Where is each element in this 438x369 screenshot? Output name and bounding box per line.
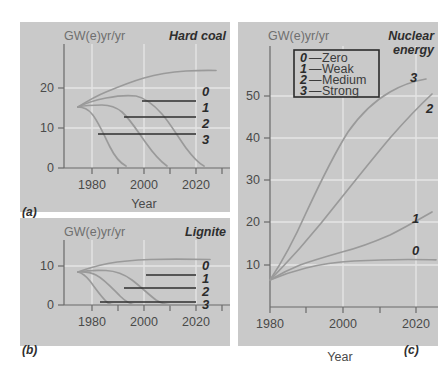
panel-c-curve-label-3: 3 xyxy=(410,70,418,85)
panel-b-curve-3 xyxy=(78,272,116,305)
panel-c-title-line2: energy xyxy=(393,43,435,57)
panel-b-ytick-0: 0 xyxy=(47,298,54,312)
panel-c-ytick-30: 30 xyxy=(246,173,260,187)
panel-c-xtick-2000: 2000 xyxy=(329,317,357,331)
panel-b-id-wrap: (b) xyxy=(22,338,62,362)
panel-a-chart: 20 10 0 1980 2000 2020 GW(e)yr/yr Hard c… xyxy=(20,22,230,212)
legend-dash-3: — xyxy=(309,84,322,98)
panel-c-ytick-20: 20 xyxy=(246,215,260,229)
panel-c-xaxis-label: Year xyxy=(327,350,352,364)
panel-a-xtick-1980: 1980 xyxy=(78,178,106,192)
panel-b-lignite: 10 0 1980 2000 2020 GW(e)yr/yr Lignite 0… xyxy=(20,218,230,346)
legend-num-3: 3 xyxy=(300,84,307,98)
panel-c-unit-label: GW(e)yr/yr xyxy=(268,29,329,43)
panel-a-ytick-10: 10 xyxy=(40,121,54,135)
panel-a-curve-label-3: 3 xyxy=(202,132,210,147)
panel-c-ytick-40: 40 xyxy=(246,131,260,145)
panel-c-xtick-2020: 2020 xyxy=(402,317,430,331)
panel-a-curve-label-0: 0 xyxy=(202,84,210,99)
panel-c-curve-label-0: 0 xyxy=(412,243,420,258)
panel-c-nuclear-energy: 50 40 30 20 10 1980 2000 2020 GW(e)yr/yr… xyxy=(238,22,438,346)
panel-b-xtick-2000: 2000 xyxy=(130,315,158,329)
panel-a-curve-3 xyxy=(78,107,126,166)
panel-b-xtick-2020: 2020 xyxy=(182,315,210,329)
panel-a-ytick-20: 20 xyxy=(40,81,54,95)
panel-b-unit-label: GW(e)yr/yr xyxy=(64,225,125,239)
panel-c-curve-label-1: 1 xyxy=(412,211,419,226)
panel-a-xtick-2000: 2000 xyxy=(130,178,158,192)
panel-c-xaxis-label-wrap: Year xyxy=(250,346,430,368)
panel-b-leader-lines xyxy=(100,275,196,302)
panel-a-curve-1 xyxy=(78,96,204,166)
legend-label-strong: Strong xyxy=(322,84,359,98)
panel-a-xaxis-label: Year xyxy=(131,197,156,211)
panel-b-chart: 10 0 1980 2000 2020 GW(e)yr/yr Lignite 0… xyxy=(20,218,230,346)
panel-c-title-line1: Nuclear xyxy=(388,29,435,43)
panel-c-curve-0 xyxy=(270,260,436,281)
panel-b-ytick-10: 10 xyxy=(40,259,54,273)
panel-a-hard-coal: 20 10 0 1980 2000 2020 GW(e)yr/yr Hard c… xyxy=(20,22,230,212)
panel-b-xtick-1980: 1980 xyxy=(78,315,106,329)
panel-c-chart: 50 40 30 20 10 1980 2000 2020 GW(e)yr/yr… xyxy=(238,22,438,346)
panel-a-title: Hard coal xyxy=(169,29,226,43)
panel-a-unit-label: GW(e)yr/yr xyxy=(64,29,125,43)
panel-a-curve-label-2: 2 xyxy=(201,116,210,131)
panel-c-curve-2 xyxy=(270,94,432,280)
panel-a-ytick-0: 0 xyxy=(47,161,54,175)
panel-b-title: Lignite xyxy=(185,225,226,239)
panel-b-curve-label-3: 3 xyxy=(202,297,210,312)
panel-b-id: (b) xyxy=(22,343,37,357)
panel-a-xtick-2020: 2020 xyxy=(182,178,210,192)
panel-a-id: (a) xyxy=(22,205,37,219)
figure-root: 20 10 0 1980 2000 2020 GW(e)yr/yr Hard c… xyxy=(0,0,438,369)
legend-box: 0 — Zero 1 — Weak 2 — Medium 3 — Strong xyxy=(294,50,379,98)
panel-c-curve-label-2: 2 xyxy=(425,101,434,116)
panel-a-curve-label-1: 1 xyxy=(202,100,209,115)
panel-c-ytick-10: 10 xyxy=(246,258,260,272)
panel-c-xtick-1980: 1980 xyxy=(256,317,284,331)
panel-c-ytick-50: 50 xyxy=(246,89,260,103)
